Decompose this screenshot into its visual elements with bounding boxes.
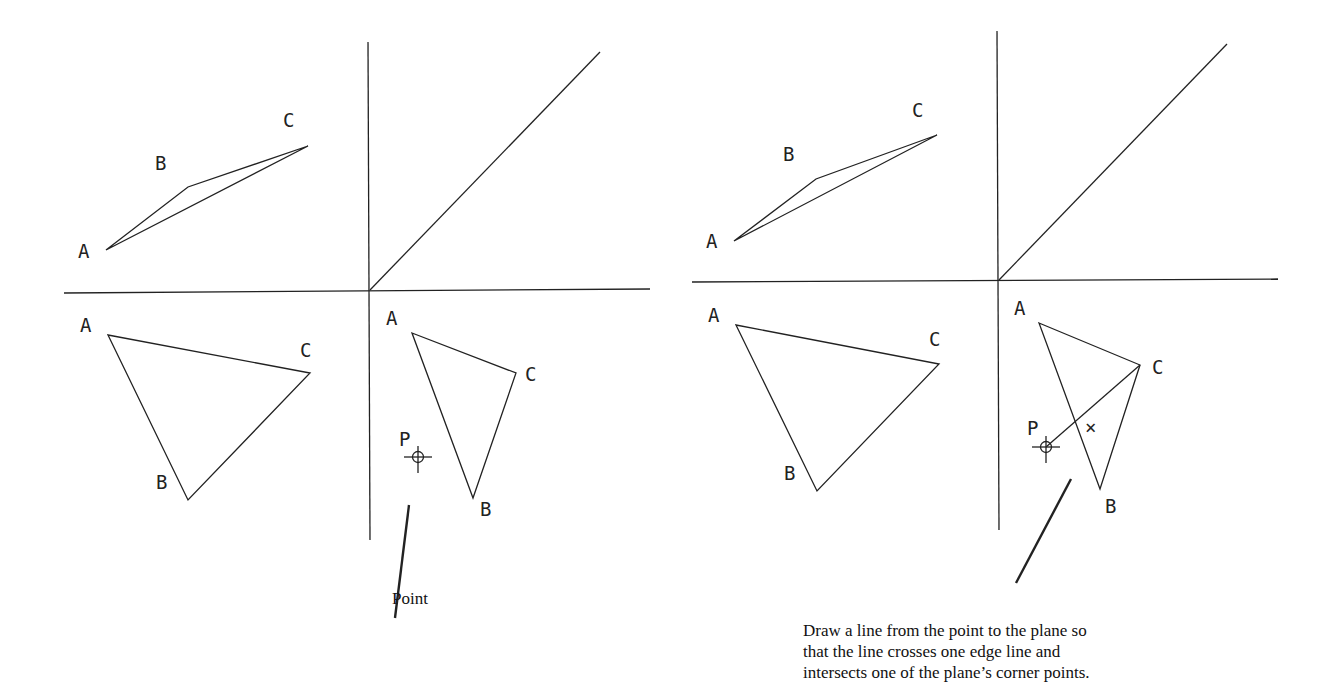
label-front-b: B — [156, 471, 167, 493]
point-p-marker — [404, 446, 432, 473]
label-front-c: C — [300, 339, 311, 361]
label-top-a: A — [78, 240, 90, 262]
label-side-a: A — [386, 307, 398, 329]
plane-top-view — [734, 135, 937, 241]
leader-line — [1016, 479, 1071, 583]
label-side-c: C — [525, 363, 536, 385]
caption-line-3: intersects one of the plane’s corner poi… — [803, 662, 1090, 683]
caption-line-2: that the line crosses one edge line and — [803, 641, 1090, 662]
label-side-a: A — [1014, 297, 1026, 319]
left-panel: A B C A B C A B C P — [64, 42, 650, 618]
label-side-b: B — [480, 498, 491, 520]
miter-line — [370, 52, 600, 290]
left-caption: Point — [392, 588, 428, 609]
label-top-c: C — [283, 109, 294, 131]
fold-line-horizontal — [64, 289, 650, 293]
diagram-canvas: A B C A B C A B C P × A B C A B C A B C — [0, 0, 1339, 700]
caption-line-1: Draw a line from the point to the plane … — [803, 620, 1090, 641]
plane-front-view — [108, 335, 310, 500]
label-top-b: B — [155, 152, 166, 174]
label-front-a: A — [80, 314, 92, 336]
label-top-b: B — [783, 143, 794, 165]
plane-side-view — [1039, 323, 1140, 489]
label-top-a: A — [706, 230, 718, 252]
plane-top-view — [106, 146, 308, 250]
right-panel: × A B C A B C A B C P — [692, 31, 1278, 583]
label-side-c: C — [1152, 356, 1163, 378]
label-top-c: C — [912, 99, 923, 121]
right-caption: Draw a line from the point to the plane … — [803, 620, 1090, 683]
label-point-p: P — [1027, 417, 1038, 439]
plane-side-view — [412, 333, 516, 498]
label-front-c: C — [929, 328, 940, 350]
label-front-a: A — [708, 304, 720, 326]
intersection-mark: × — [1085, 416, 1096, 438]
plane-front-view — [736, 325, 939, 491]
label-front-b: B — [784, 462, 795, 484]
label-point-p: P — [399, 428, 410, 450]
label-side-b: B — [1105, 495, 1116, 517]
fold-line-horizontal — [692, 279, 1278, 282]
miter-line — [999, 44, 1227, 280]
point-p-marker — [1032, 436, 1060, 463]
